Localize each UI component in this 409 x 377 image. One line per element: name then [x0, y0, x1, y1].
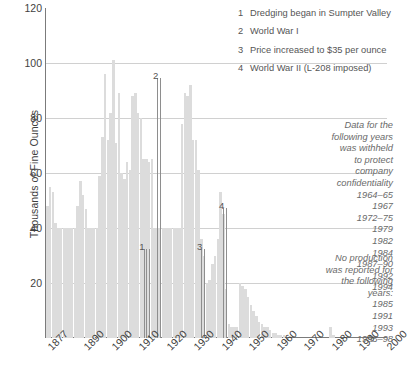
annotation-leader-line — [204, 249, 205, 338]
no-production-note-line: years: — [243, 288, 393, 300]
legend-note-text: Price increased to $35 per ounce — [250, 45, 394, 56]
annotation-number-2: 2 — [153, 71, 158, 81]
no-production-note-line: was reported for — [243, 265, 393, 277]
no-production-year: 1985 — [243, 299, 393, 311]
no-production-note-line: the following — [243, 276, 393, 288]
legend-note-number: 3 — [238, 45, 250, 56]
withheld-year: 1964–65 — [243, 190, 393, 202]
withheld-note-line: to protect — [243, 155, 393, 167]
numbered-legend: 1Dredging began in Sumpter Valley2World … — [238, 8, 394, 82]
annotation-leader-line — [226, 208, 227, 339]
withheld-note-line: following years — [243, 132, 393, 144]
legend-note-number: 2 — [238, 26, 250, 37]
gridline — [46, 118, 387, 119]
legend-note-number: 1 — [238, 8, 250, 19]
y-tick-label: 80 — [12, 112, 42, 124]
withheld-year: 1979 — [243, 224, 393, 236]
y-axis-tick-labels: 20406080100120 — [8, 0, 42, 377]
no-production-note-line: No production — [243, 253, 393, 265]
no-production-year: 1993 — [243, 323, 393, 335]
withheld-note-line: company — [243, 166, 393, 178]
annotation-leader-line — [149, 249, 150, 338]
withheld-note-line: Data for the — [243, 120, 393, 132]
no-production-note: No productionwas reported forthe followi… — [243, 253, 393, 346]
y-tick-label: 120 — [12, 2, 42, 14]
legend-note-item: 3Price increased to $35 per ounce — [238, 45, 394, 56]
legend-note-number: 4 — [238, 63, 250, 74]
legend-note-item: 4World War II (L-208 imposed) — [238, 63, 394, 74]
y-tick-label: 60 — [12, 167, 42, 179]
annotation-number-4: 4 — [219, 201, 224, 211]
withheld-year: 1967 — [243, 201, 393, 213]
y-tick-label: 40 — [12, 222, 42, 234]
no-production-year: 1991 — [243, 311, 393, 323]
y-tick-label: 100 — [12, 57, 42, 69]
withheld-note-line: was withheld — [243, 143, 393, 155]
legend-note-text: World War I — [250, 26, 394, 37]
withheld-year: 1982 — [243, 236, 393, 248]
legend-note-text: World War II (L-208 imposed) — [250, 63, 394, 74]
legend-note-item: 2World War I — [238, 26, 394, 37]
annotation-leader-line — [157, 78, 158, 338]
annotation-leader-line — [223, 208, 224, 339]
no-production-year: 1995–98 — [243, 334, 393, 346]
withheld-year: 1972–75 — [243, 213, 393, 225]
annotation-number-1: 1 — [139, 242, 144, 252]
legend-note-text: Dredging began in Sumpter Valley — [250, 8, 394, 19]
annotation-leader-line — [146, 249, 147, 338]
legend-note-item: 1Dredging began in Sumpter Valley — [238, 8, 394, 19]
withheld-note-line: confidentiality — [243, 178, 393, 190]
annotation-leader-line — [201, 249, 202, 338]
annotation-number-3: 3 — [197, 242, 202, 252]
y-tick-label: 20 — [12, 277, 42, 289]
annotation-leader-line — [160, 78, 161, 338]
annotation-leader-line — [144, 249, 145, 338]
